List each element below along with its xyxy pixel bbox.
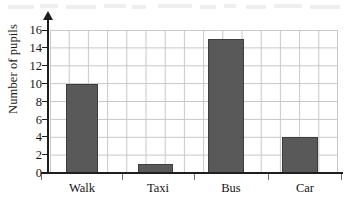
x-category-label-walk: Walk — [46, 182, 118, 195]
y-axis-line — [47, 18, 49, 173]
x-tick-mark — [194, 174, 195, 180]
bar-chart: Number of pupils 0 2 4 6 8 10 12 14 16 — [0, 0, 349, 211]
x-category-label-car: Car — [270, 182, 340, 195]
bar-walk[interactable] — [66, 84, 98, 173]
y-tick-label: 16 — [22, 24, 42, 37]
bar-car[interactable] — [282, 137, 318, 173]
y-tick-label: 0 — [22, 167, 42, 180]
y-tick-label: 10 — [22, 78, 42, 91]
y-tick-label: 14 — [22, 42, 42, 55]
y-axis-title: Number of pupils — [4, 9, 22, 129]
x-tick-mark — [268, 174, 269, 180]
plot-area — [50, 30, 338, 173]
x-category-label-bus: Bus — [196, 182, 266, 195]
x-tick-mark — [122, 174, 123, 180]
x-category-label-taxi: Taxi — [124, 182, 192, 195]
y-tick-label: 4 — [22, 131, 42, 144]
bar-bus[interactable] — [208, 39, 244, 173]
y-tick-label: 6 — [22, 114, 42, 127]
y-axis-tick-labels: 0 2 4 6 8 10 12 14 16 — [22, 0, 42, 211]
y-tick-label: 2 — [22, 149, 42, 162]
bars-layer — [50, 30, 338, 173]
x-axis-line — [41, 172, 343, 174]
y-tick-label: 8 — [22, 96, 42, 109]
x-tick-mark — [41, 174, 42, 180]
x-tick-mark — [341, 174, 342, 180]
y-tick-label: 12 — [22, 60, 42, 73]
